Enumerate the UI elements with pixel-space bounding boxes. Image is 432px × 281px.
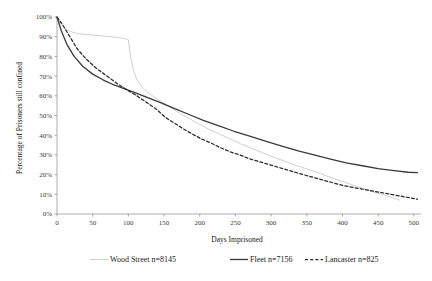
survival-chart-figure: 0%10%20%30%40%50%60%70%80%90%100% 050100… xyxy=(0,0,432,281)
x-tick-label: 200 xyxy=(194,219,205,227)
y-tick-label: 20% xyxy=(39,171,52,179)
legend-label-1: Fleet n=7156 xyxy=(250,255,293,264)
y-tick-label: 10% xyxy=(39,191,52,199)
x-tick-label: 250 xyxy=(230,219,241,227)
x-tick-label: 350 xyxy=(302,219,313,227)
x-tick-label: 450 xyxy=(373,219,384,227)
y-tick-label: 40% xyxy=(39,132,52,140)
legend-label-0: Wood Street n=8145 xyxy=(110,255,176,264)
x-axis-title-label: Days Imprisoned xyxy=(211,235,263,244)
x-tick-label: 150 xyxy=(159,219,170,227)
y-tick-label: 50% xyxy=(39,112,52,120)
x-tick-label: 100 xyxy=(123,219,134,227)
y-tick-label: 100% xyxy=(36,13,53,21)
x-tick-label: 500 xyxy=(409,219,420,227)
y-axis-title-label: Percentage of Prisoners still confined xyxy=(15,62,24,174)
chart-svg: 0%10%20%30%40%50%60%70%80%90%100% 050100… xyxy=(0,0,432,281)
y-tick-label: 90% xyxy=(39,33,52,41)
x-tick-label: 300 xyxy=(266,219,277,227)
y-tick-label: 30% xyxy=(39,151,52,159)
x-tick-label: 50 xyxy=(89,219,97,227)
x-axis-title: Days Imprisoned xyxy=(211,235,263,244)
y-axis-title: Percentage of Prisoners still confined xyxy=(15,62,24,174)
y-tick-label: 80% xyxy=(39,53,52,61)
x-tick-label: 0 xyxy=(55,219,59,227)
y-tick-label: 0% xyxy=(43,210,53,218)
y-tick-label: 60% xyxy=(39,92,52,100)
y-tick-label: 70% xyxy=(39,73,52,81)
x-tick-label: 400 xyxy=(337,219,348,227)
legend-label-2: Lancaster n=825 xyxy=(325,255,379,264)
